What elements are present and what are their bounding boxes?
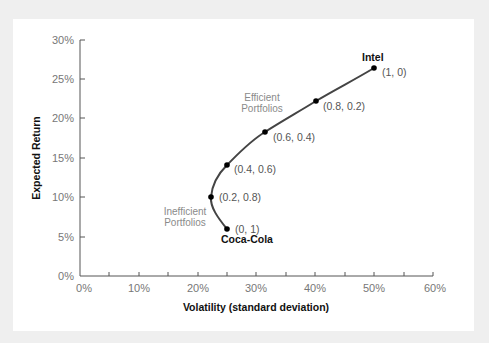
intel-label: Intel (362, 51, 384, 63)
x-tick: 50% (363, 282, 385, 294)
x-tick: 30% (245, 282, 267, 294)
point-label: (1, 0) (382, 66, 407, 78)
y-tick: 25% (52, 73, 74, 85)
inefficient-label: Portfolios (164, 217, 206, 228)
x-tick: 0% (76, 282, 92, 294)
y-tick: 15% (52, 152, 74, 164)
y-tick: 5% (58, 231, 74, 243)
y-tick: 0% (58, 270, 74, 282)
point-coca-cola (224, 226, 230, 232)
frontier-chart: 30% 25% 20% 15% 10% 5% 0% 0% 10% 20% 30%… (0, 0, 489, 343)
efficient-label: Portfolios (241, 103, 283, 114)
x-axis-title: Volatility (standard deviation) (183, 301, 329, 313)
efficient-annotation: Efficient Portfolios (241, 92, 283, 114)
point (224, 162, 230, 168)
x-tick: 10% (128, 282, 150, 294)
x-axis (80, 272, 433, 276)
x-tick-labels: 0% 10% 20% 30% 40% 50% 60% (76, 282, 446, 294)
inefficient-label: Inefficient (164, 206, 207, 217)
y-tick: 20% (52, 112, 74, 124)
efficient-label: Efficient (244, 92, 280, 103)
x-tick: 40% (304, 282, 326, 294)
point-intel (371, 65, 377, 71)
point (208, 194, 214, 200)
x-tick: 60% (424, 282, 446, 294)
y-tick-labels: 30% 25% 20% 15% 10% 5% 0% (52, 34, 74, 282)
point-label: (0.2, 0.8) (219, 191, 261, 203)
point-label: (0.4, 0.6) (234, 163, 276, 175)
data-points (208, 65, 377, 232)
y-tick: 30% (52, 34, 74, 46)
x-tick: 20% (187, 282, 209, 294)
y-axis (80, 40, 85, 276)
inefficient-annotation: Inefficient Portfolios (164, 206, 207, 228)
coca-cola-label: Coca-Cola (221, 233, 273, 245)
point (313, 98, 319, 104)
frontier-curve (211, 68, 374, 229)
y-tick: 10% (52, 191, 74, 203)
y-axis-title: Expected Return (30, 116, 42, 199)
point-label: (0.6, 0.4) (273, 131, 315, 143)
point-label: (0.8, 0.2) (323, 100, 365, 112)
point (262, 129, 268, 135)
